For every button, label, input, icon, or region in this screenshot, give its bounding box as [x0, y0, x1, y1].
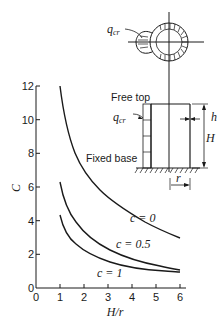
- x-tick-0: 0: [33, 291, 39, 303]
- q-cr-side-label: qcr: [113, 110, 127, 125]
- x-tick-3: 3: [105, 291, 111, 303]
- x-tick-2: 2: [81, 291, 87, 303]
- x-tick-4: 4: [129, 291, 135, 303]
- y-tick-4: 4: [28, 215, 34, 227]
- x-axis-label: H/r: [106, 305, 124, 319]
- label-c-0: c = 0: [130, 211, 155, 225]
- thickness-label: h: [211, 110, 217, 124]
- y-tick-12: 12: [22, 80, 34, 92]
- x-tick-labels: 0 1 2 3 4 5 6: [33, 291, 183, 303]
- cylinder-elevation-diagram: [133, 104, 208, 190]
- y-tick-labels: 12 10 8 6 4 2 0: [22, 80, 34, 294]
- label-c-0.5: c = 0.5: [116, 237, 150, 251]
- free-top-label: Free top: [111, 91, 150, 103]
- ground-hatching: [135, 168, 198, 173]
- y-axis-label: C: [9, 183, 23, 192]
- x-tick-6: 6: [177, 291, 183, 303]
- chart-figure: 12 10 8 6 4 2 0 0 1 2 3 4 5 6 H/r C c = …: [0, 0, 223, 331]
- arrowheads: [138, 104, 206, 187]
- curve-c-0.5: [60, 182, 180, 270]
- height-label: H: [205, 131, 216, 145]
- y-tick-10: 10: [22, 114, 34, 126]
- y-tick-2: 2: [28, 248, 34, 260]
- y-tick-8: 8: [28, 147, 34, 159]
- radius-label: r: [176, 171, 181, 185]
- fixed-base-label: Fixed base: [86, 152, 138, 164]
- x-tick-5: 5: [153, 291, 159, 303]
- axes: [36, 86, 186, 288]
- label-c-1: c = 1: [97, 266, 122, 280]
- q-cr-top-label: qcr: [107, 22, 121, 37]
- y-tick-6: 6: [28, 181, 34, 193]
- x-tick-1: 1: [57, 291, 63, 303]
